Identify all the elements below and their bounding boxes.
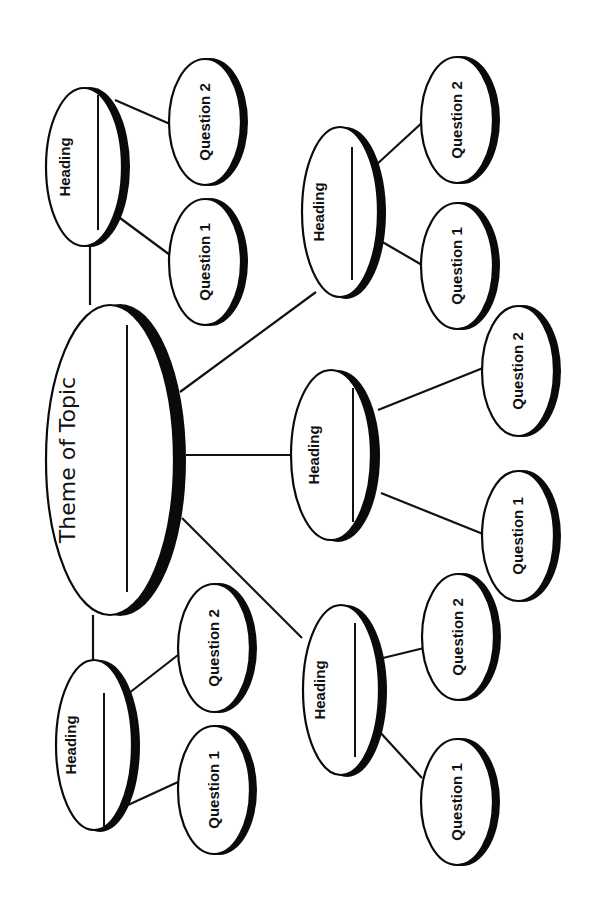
question-node-1: Question 1 — [421, 202, 500, 330]
question-node-1: Question 1 — [169, 198, 248, 326]
connector-tr-q1 — [379, 240, 422, 265]
heading-label: Heading — [56, 137, 73, 196]
question-label: Question 1 — [509, 497, 526, 575]
question-node-2: Question 2 — [178, 583, 257, 713]
branch-bottom-right: Heading Question 2 Question 1 — [303, 573, 501, 866]
heading-label: Heading — [62, 715, 79, 774]
question-node-2: Question 2 — [421, 56, 500, 184]
branch-middle: Heading Question 2 Question 1 — [291, 305, 561, 602]
connector-tl-q1 — [120, 218, 170, 255]
theme-node: Theme of Topic — [46, 304, 186, 616]
question-label: Question 1 — [448, 763, 465, 841]
connector-mid-q1 — [381, 493, 488, 536]
question-label: Question 2 — [449, 598, 466, 676]
branch-bottom-left: Heading Question 2 Question 1 — [56, 583, 257, 855]
question-label: Question 2 — [448, 81, 465, 159]
question-label: Question 2 — [509, 332, 526, 410]
connector-tl-q2 — [115, 100, 170, 124]
theme-label: Theme of Topic — [55, 377, 80, 544]
concept-map: Theme of Topic Heading Question 2 Questi… — [0, 0, 597, 913]
question-node-1: Question 1 — [482, 470, 561, 602]
connector-mid-q2 — [378, 366, 488, 410]
question-label: Question 2 — [196, 83, 213, 161]
question-label: Question 1 — [196, 223, 213, 301]
question-node-2: Question 2 — [482, 305, 561, 437]
heading-label: Heading — [305, 425, 322, 484]
heading-node: Heading — [291, 370, 380, 542]
connector-bl-q2 — [124, 655, 178, 697]
question-node-1: Question 1 — [421, 738, 500, 866]
question-label: Question 2 — [205, 609, 222, 687]
heading-label: Heading — [310, 182, 327, 241]
question-node-2: Question 2 — [169, 58, 248, 186]
branch-top-right: Heading Question 2 Question 1 — [302, 56, 500, 330]
heading-label: Heading — [311, 660, 328, 719]
connector-br-q1 — [378, 730, 422, 778]
heading-node: Heading — [46, 87, 130, 247]
question-node-2: Question 2 — [422, 573, 501, 701]
question-node-1: Question 1 — [178, 725, 257, 855]
connector-br-q2 — [383, 648, 424, 658]
heading-node: Heading — [303, 605, 387, 777]
branch-top-left: Heading Question 2 Question 1 — [46, 58, 248, 326]
question-label: Question 1 — [448, 227, 465, 305]
connector-tr-q2 — [376, 120, 425, 165]
heading-node: Heading — [302, 127, 386, 299]
heading-node: Heading — [56, 660, 140, 832]
question-label: Question 1 — [205, 751, 222, 829]
